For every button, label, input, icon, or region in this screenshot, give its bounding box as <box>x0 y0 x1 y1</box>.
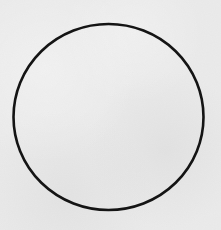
circle-diagram <box>0 0 221 230</box>
drawing-canvas <box>0 0 221 230</box>
paper-noise <box>0 0 221 230</box>
